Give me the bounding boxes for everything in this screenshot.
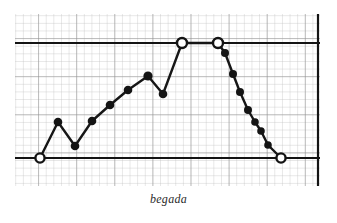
data-point [124, 86, 133, 95]
graph-paper-grid [15, 14, 320, 186]
data-point [159, 90, 168, 99]
data-point [221, 49, 229, 57]
data-point [54, 118, 63, 127]
data-point [229, 70, 237, 78]
data-point-open-peak-left [177, 38, 187, 48]
pitch-contour-figure: begada [0, 0, 337, 223]
data-point [143, 71, 152, 80]
data-point [236, 88, 244, 96]
grid-major-layer [15, 14, 320, 186]
data-point-open-start [35, 153, 44, 162]
data-point [106, 101, 115, 110]
data-point [257, 127, 265, 135]
data-point [244, 106, 252, 114]
data-point [264, 141, 272, 149]
plot-canvas [0, 0, 337, 223]
data-point-open-peak-right [213, 38, 223, 48]
data-point [251, 118, 259, 126]
figure-caption: begada [0, 192, 337, 207]
data-point [71, 142, 80, 151]
data-point-open-end [276, 153, 285, 162]
data-point [88, 117, 97, 126]
